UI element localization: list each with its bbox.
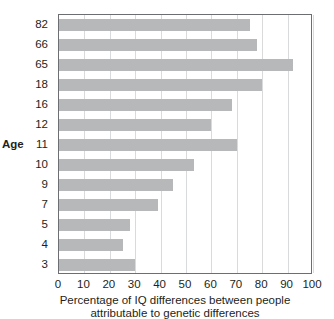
bar [59,19,250,31]
y-axis-tick-labels: 826665181612111097543 [0,14,52,274]
bar [59,219,130,231]
bar [59,239,123,251]
plot-area [58,14,312,274]
y-axis-tick-label: 7 [0,198,48,210]
y-axis-tick-label: 5 [0,218,48,230]
bar [59,259,135,271]
y-axis-tick-label: 82 [0,18,48,30]
bar [59,199,158,211]
bars-layer [59,15,311,273]
gridline [313,15,314,273]
bar-chart-figure: Age 826665181612111097543 01020304050607… [0,0,334,319]
x-axis-title-line-2: attributable to genetic differences [30,307,320,319]
bar [59,159,194,171]
y-axis-tick-label: 18 [0,78,48,90]
y-axis-tick-label: 12 [0,118,48,130]
x-axis-tick-label: 100 [292,277,332,291]
y-axis-tick-label: 10 [0,158,48,170]
y-axis-tick-label: 11 [0,138,48,150]
bar [59,59,293,71]
y-axis-tick-label: 66 [0,38,48,50]
x-axis-title: Percentage of IQ differences between peo… [30,294,320,319]
bar [59,39,257,51]
y-axis-tick-label: 16 [0,98,48,110]
bar [59,179,173,191]
bar [59,119,211,131]
y-axis-tick-label: 9 [0,178,48,190]
y-axis-tick-label: 3 [0,258,48,270]
x-axis-tick-labels: 0102030405060708090100 [58,277,312,293]
bar [59,139,237,151]
x-axis-title-line-1: Percentage of IQ differences between peo… [60,294,291,306]
y-axis-tick-label: 65 [0,58,48,70]
bar [59,79,262,91]
y-axis-tick-label: 4 [0,238,48,250]
bar [59,99,232,111]
